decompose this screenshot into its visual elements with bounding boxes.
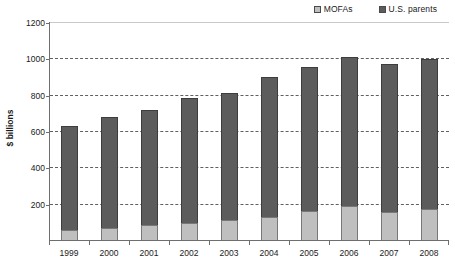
bar-segment-us-parents[interactable] [181, 98, 198, 224]
bar-group-2006 [329, 22, 369, 240]
bar-segment-mofas[interactable] [421, 209, 438, 240]
y-tick-label: 1000 [26, 54, 45, 64]
y-axis-title: $ billions [2, 0, 18, 255]
bar-segment-us-parents[interactable] [101, 117, 118, 228]
y-tick-label: 400 [31, 163, 45, 173]
bar-segment-mofas[interactable] [301, 211, 318, 240]
bar-segment-us-parents[interactable] [221, 93, 238, 221]
bar-stack [381, 22, 398, 240]
bar-group-2007 [369, 22, 409, 240]
x-tick-mark [129, 241, 130, 245]
x-tick-mark [369, 241, 370, 245]
x-tick-mark [89, 241, 90, 245]
bar-segment-mofas[interactable] [181, 223, 198, 240]
legend-entry-mofas[interactable]: MOFAs [314, 4, 353, 14]
legend-label: U.S. parents [389, 4, 437, 14]
x-tick-2000: 2000 [89, 241, 129, 263]
x-tick-2008: 2008 [409, 241, 449, 263]
legend-swatch-icon [379, 6, 386, 13]
plot-area: 020040060080010001200 [49, 22, 449, 241]
x-tick-label: 2000 [100, 248, 119, 263]
bar-group-2004 [250, 22, 290, 240]
legend-label: MOFAs [324, 4, 353, 14]
x-tick-2002: 2002 [169, 241, 209, 263]
bar-stack [141, 22, 158, 240]
bar-segment-us-parents[interactable] [301, 67, 318, 211]
x-tick-2005: 2005 [289, 241, 329, 263]
x-tick-mark [209, 241, 210, 245]
y-tick-label: 800 [31, 91, 45, 101]
bar-segment-mofas[interactable] [61, 230, 78, 240]
legend-entry-parents[interactable]: U.S. parents [379, 4, 437, 14]
bar-stack [341, 22, 358, 240]
x-axis: 1999200020012002200320042005200620072008 [49, 241, 449, 263]
bar-segment-mofas[interactable] [141, 225, 158, 240]
x-tick-mark [289, 241, 290, 245]
x-tick-mark [448, 241, 449, 245]
bar-segment-mofas[interactable] [261, 217, 278, 240]
y-tick-label: 200 [31, 200, 45, 210]
bar-segment-us-parents[interactable] [421, 59, 438, 209]
x-tick-mark [49, 241, 50, 245]
x-tick-label: 2007 [380, 248, 399, 263]
x-tick-mark [249, 241, 250, 245]
bar-stack [421, 22, 438, 240]
bar-segment-us-parents[interactable] [261, 77, 278, 216]
x-tick-mark [409, 241, 410, 245]
x-tick-label: 2001 [140, 248, 159, 263]
y-axis-title-text: $ billions [5, 109, 15, 146]
x-tick-label: 2006 [340, 248, 359, 263]
x-tick-label: 2003 [220, 248, 239, 263]
bar-group-2008 [409, 22, 449, 240]
bar-group-2002 [170, 22, 210, 240]
bar-segment-us-parents[interactable] [381, 64, 398, 213]
x-tick-2001: 2001 [129, 241, 169, 263]
chart-legend: MOFAsU.S. parents [0, 2, 455, 16]
bar-stack [181, 22, 198, 240]
bar-segment-us-parents[interactable] [61, 126, 78, 230]
bar-segment-mofas[interactable] [221, 220, 238, 240]
x-tick-2006: 2006 [329, 241, 369, 263]
bar-segment-mofas[interactable] [341, 206, 358, 240]
bar-group-2000 [90, 22, 130, 240]
x-tick-2004: 2004 [249, 241, 289, 263]
bar-segment-us-parents[interactable] [341, 57, 358, 207]
x-tick-label: 1999 [60, 248, 79, 263]
bar-stack [61, 22, 78, 240]
x-tick-mark [329, 241, 330, 245]
y-tick-label: 1200 [26, 18, 45, 28]
bar-group-2003 [210, 22, 250, 240]
x-tick-2007: 2007 [369, 241, 409, 263]
x-tick-label: 2004 [260, 248, 279, 263]
legend-swatch-icon [314, 6, 321, 13]
x-tick-label: 2005 [300, 248, 319, 263]
bar-stack [301, 22, 318, 240]
bar-segment-mofas[interactable] [381, 212, 398, 240]
x-tick-mark [169, 241, 170, 245]
bar-stack [261, 22, 278, 240]
bar-stack [221, 22, 238, 240]
bar-group-2001 [130, 22, 170, 240]
bar-group-2005 [289, 22, 329, 240]
bar-group-1999 [50, 22, 90, 240]
bar-series-group [50, 22, 449, 240]
bar-stack [101, 22, 118, 240]
bar-segment-us-parents[interactable] [141, 110, 158, 226]
x-tick-1999: 1999 [49, 241, 89, 263]
y-tick-label: 600 [31, 127, 45, 137]
x-tick-2003: 2003 [209, 241, 249, 263]
x-tick-label: 2002 [180, 248, 199, 263]
bar-segment-mofas[interactable] [101, 228, 118, 240]
x-tick-label: 2008 [420, 248, 439, 263]
